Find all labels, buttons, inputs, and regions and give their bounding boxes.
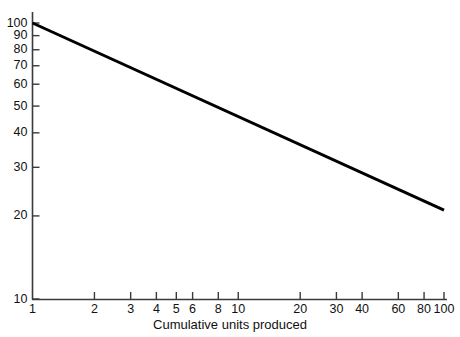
x-tick-label: 10 xyxy=(213,303,263,316)
learning-curve-chart: 100908070605040302010 123456810203040608… xyxy=(0,0,460,337)
series-line xyxy=(33,23,445,210)
y-tick-marks xyxy=(33,23,40,299)
y-tick-label: 20 xyxy=(0,209,28,222)
y-tick-label: 50 xyxy=(0,100,28,113)
x-axis-title: Cumulative units produced xyxy=(0,317,460,332)
x-tick-label: 100 xyxy=(419,303,460,316)
y-tick-label: 40 xyxy=(0,126,28,139)
y-tick-label: 60 xyxy=(0,78,28,91)
x-tick-label: 1 xyxy=(8,303,58,316)
data-series-group xyxy=(33,23,445,210)
y-tick-label: 100 xyxy=(0,17,28,30)
y-tick-label: 90 xyxy=(0,29,28,42)
y-tick-label: 80 xyxy=(0,43,28,56)
x-tick-marks xyxy=(94,292,444,299)
y-tick-label: 30 xyxy=(0,161,28,174)
plot-area xyxy=(0,0,460,337)
y-tick-label: 70 xyxy=(0,59,28,72)
